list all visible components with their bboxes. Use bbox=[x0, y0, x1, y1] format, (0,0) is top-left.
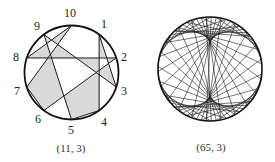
point-label-10: 10 bbox=[64, 7, 76, 19]
figure-mod-65-times-3: (65, 3) bbox=[138, 0, 275, 162]
circle-diagram-11-3 bbox=[0, 0, 140, 162]
chord-line bbox=[183, 74, 262, 113]
circle-outline bbox=[158, 17, 262, 121]
caption-left: (11, 3) bbox=[57, 142, 86, 154]
point-label-4: 4 bbox=[101, 116, 107, 128]
chord-line bbox=[161, 86, 183, 113]
caption-right: (65, 3) bbox=[196, 141, 225, 153]
chord-line bbox=[216, 17, 256, 44]
figure-mod-11-times-3: 10 1 2 3 4 5 6 7 8 9 (11, 3) bbox=[0, 0, 140, 162]
point-label-9: 9 bbox=[34, 20, 40, 32]
point-label-1: 1 bbox=[101, 18, 107, 30]
chord-line bbox=[158, 24, 235, 72]
point-label-3: 3 bbox=[121, 85, 127, 97]
circle-diagram-65-3 bbox=[138, 0, 275, 162]
point-label-7: 7 bbox=[14, 85, 20, 97]
point-label-6: 6 bbox=[35, 113, 41, 125]
chord-line bbox=[183, 25, 262, 64]
point-label-2: 2 bbox=[121, 51, 127, 63]
point-label-8: 8 bbox=[13, 51, 19, 63]
point-label-5: 5 bbox=[68, 124, 74, 136]
